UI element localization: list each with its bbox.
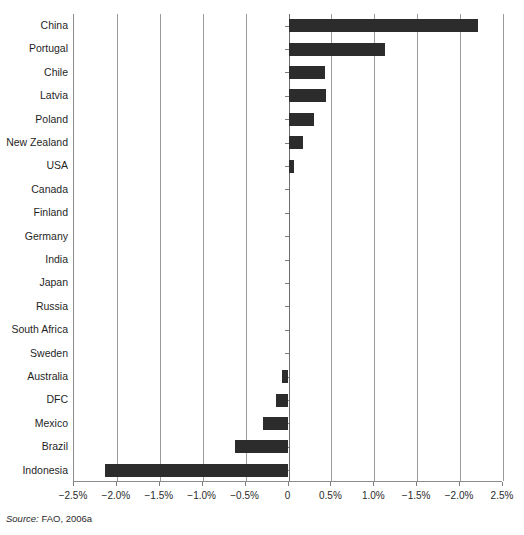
category-label-mexico: Mexico: [0, 412, 68, 435]
x-axis-tick: [288, 482, 289, 486]
x-axis-tick-label: −0.5%: [230, 490, 259, 501]
x-axis-tick: [416, 482, 417, 486]
bar-series: [74, 14, 502, 481]
bar-row: [74, 61, 502, 84]
bar-row: [74, 84, 502, 107]
bar-row: [74, 131, 502, 154]
bar-row: [74, 37, 502, 60]
source-text: FAO, 2006a: [41, 513, 92, 524]
chart-figure: ChinaPortugalChileLatviaPolandNew Zealan…: [0, 0, 524, 535]
bar: [289, 43, 386, 56]
category-label-new-zealand: New Zealand: [0, 131, 68, 154]
x-axis-tick-label: 0.5%: [319, 490, 342, 501]
x-axis-tick: [116, 482, 117, 486]
axis-row-tick: [285, 330, 289, 331]
bar: [289, 19, 479, 32]
bar-row: [74, 178, 502, 201]
category-label-latvia: Latvia: [0, 84, 68, 107]
bar-row: [74, 201, 502, 224]
plot-area: [73, 14, 502, 482]
axis-row-tick: [285, 213, 289, 214]
bar-row: [74, 459, 502, 482]
source-note: Source: FAO, 2006a: [6, 513, 92, 524]
category-label-dfc: DFC: [0, 388, 68, 411]
x-axis-tick: [159, 482, 160, 486]
category-label-brazil: Brazil: [0, 435, 68, 458]
category-label-finland: Finland: [0, 201, 68, 224]
category-label-germany: Germany: [0, 225, 68, 248]
x-axis-tick-label: −1.5%: [402, 490, 431, 501]
bar: [105, 464, 289, 477]
bar-row: [74, 14, 502, 37]
bar-row: [74, 435, 502, 458]
bar-row: [74, 412, 502, 435]
category-label-usa: USA: [0, 154, 68, 177]
category-label-poland: Poland: [0, 108, 68, 131]
bar: [235, 440, 288, 453]
x-axis-tick-label: 0: [285, 490, 291, 501]
category-axis-labels: ChinaPortugalChileLatviaPolandNew Zealan…: [0, 14, 68, 482]
category-label-sweden: Sweden: [0, 342, 68, 365]
category-label-russia: Russia: [0, 295, 68, 318]
x-axis-tick: [459, 482, 460, 486]
bar: [263, 417, 289, 430]
category-label-china: China: [0, 14, 68, 37]
axis-row-tick: [285, 306, 289, 307]
source-label: Source:: [6, 513, 39, 524]
bar-row: [74, 225, 502, 248]
bar-row: [74, 388, 502, 411]
x-axis-tick: [373, 482, 374, 486]
bar: [289, 136, 304, 149]
category-label-south-africa: South Africa: [0, 318, 68, 341]
bar-row: [74, 108, 502, 131]
bar-row: [74, 318, 502, 341]
bar-row: [74, 342, 502, 365]
x-axis-tick-label: −2.0%: [102, 490, 131, 501]
bar: [289, 66, 325, 79]
bar-row: [74, 365, 502, 388]
bar: [289, 89, 327, 102]
category-label-canada: Canada: [0, 178, 68, 201]
bar-row: [74, 248, 502, 271]
axis-row-tick: [285, 236, 289, 237]
x-axis-tick: [245, 482, 246, 486]
category-label-portugal: Portugal: [0, 37, 68, 60]
x-axis: −2.5%−2.0%−1.5%−1.0%−0.5%00.5%1.0%−1.5%−…: [73, 482, 502, 512]
x-axis-tick-label: −2.0%: [445, 490, 474, 501]
axis-row-tick: [285, 353, 289, 354]
bar-row: [74, 154, 502, 177]
x-axis-tick-label: 2.5%: [491, 490, 514, 501]
category-label-india: India: [0, 248, 68, 271]
x-axis-tick-label: −1.5%: [144, 490, 173, 501]
bar-row: [74, 295, 502, 318]
x-axis-tick: [73, 482, 74, 486]
bar: [276, 394, 288, 407]
x-axis-tick-label: −2.5%: [59, 490, 88, 501]
category-label-indonesia: Indonesia: [0, 459, 68, 482]
category-label-japan: Japan: [0, 271, 68, 294]
bar-row: [74, 271, 502, 294]
x-axis-tick-label: −1.0%: [187, 490, 216, 501]
bar: [289, 160, 294, 173]
gridline: [503, 14, 504, 481]
bar: [282, 370, 288, 383]
category-label-chile: Chile: [0, 61, 68, 84]
x-axis-tick: [202, 482, 203, 486]
axis-row-tick: [285, 189, 289, 190]
x-axis-tick-label: 1.0%: [362, 490, 385, 501]
axis-row-tick: [285, 283, 289, 284]
axis-row-tick: [285, 260, 289, 261]
x-axis-tick: [330, 482, 331, 486]
bar: [289, 113, 315, 126]
x-axis-tick: [502, 482, 503, 486]
category-label-australia: Australia: [0, 365, 68, 388]
